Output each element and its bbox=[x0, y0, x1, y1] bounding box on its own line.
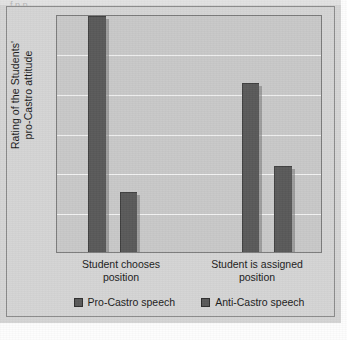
x-axis-category-label-1: Student is assigned position bbox=[192, 258, 322, 284]
legend-entry-pro-castro: Pro-Castro speech bbox=[74, 296, 176, 308]
x-axis-category-label-0-line-1: Student chooses bbox=[56, 258, 186, 271]
plot-area bbox=[56, 15, 322, 253]
chart-legend: Pro-Castro speech Anti-Castro speech bbox=[56, 296, 322, 308]
bar-anti-castro-chooses bbox=[120, 192, 137, 252]
legend-swatch-icon bbox=[201, 298, 210, 307]
x-axis-category-label-1-line-2: position bbox=[192, 271, 322, 284]
page-bottom-margin bbox=[0, 323, 347, 340]
x-axis-category-label-1-line-1: Student is assigned bbox=[192, 258, 322, 271]
x-axis-category-label-0: Student chooses position bbox=[56, 258, 186, 284]
legend-label-anti-castro: Anti-Castro speech bbox=[215, 296, 304, 308]
y-axis-title-line-2: pro-Castro attitude bbox=[22, 0, 35, 195]
y-axis-title: Rating of the Students' pro-Castro attit… bbox=[9, 0, 35, 195]
bar-pro-castro-assigned bbox=[242, 83, 259, 252]
legend-label-pro-castro: Pro-Castro speech bbox=[88, 296, 176, 308]
figure-container: f p p Rating of the Students' pro-Castro… bbox=[0, 0, 347, 340]
x-axis-category-label-0-line-2: position bbox=[56, 271, 186, 284]
legend-swatch-icon bbox=[74, 298, 83, 307]
bar-anti-castro-assigned bbox=[274, 166, 292, 252]
bar-pro-castro-chooses bbox=[88, 16, 106, 252]
legend-entry-anti-castro: Anti-Castro speech bbox=[201, 296, 304, 308]
y-axis-title-line-1: Rating of the Students' bbox=[9, 0, 22, 195]
page-right-margin bbox=[341, 0, 347, 340]
